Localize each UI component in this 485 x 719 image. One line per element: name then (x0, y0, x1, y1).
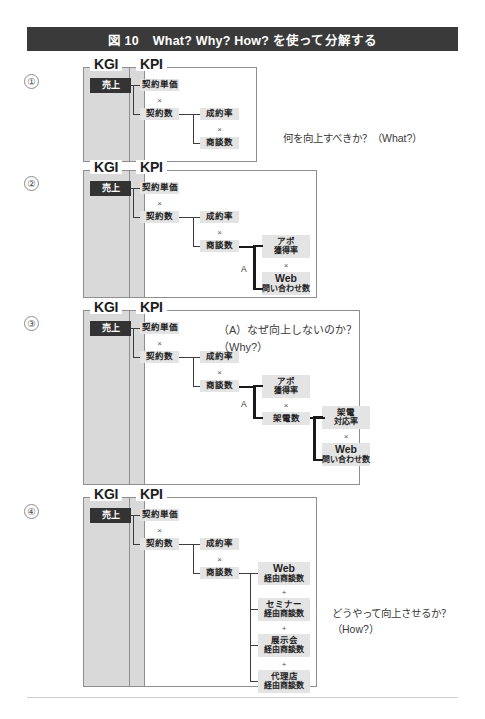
panel-2-connector (133, 188, 134, 217)
panel-4-annotation: どうやって向上させるか？ （How?） (332, 605, 451, 638)
panel-3-annotation: （A）なぜ向上しないのか？ （Why?） (218, 322, 357, 356)
figure-title-text: What? Why? How? を使って分解する (153, 30, 377, 49)
panel-4-node-unit-price: 契約単価 (140, 509, 179, 521)
kgi-label: KGI (90, 57, 122, 71)
panel-1-operator-times-2: × (200, 126, 239, 134)
panel-1-connector (179, 114, 193, 115)
figure-number: 図 10 (108, 30, 139, 49)
panel-4-connector (250, 681, 258, 682)
panel-3-connector (253, 417, 263, 419)
panel-2-connector (179, 217, 193, 218)
panel-3-bracket-2 (313, 417, 316, 461)
panel-4-operator-times-1: × (140, 527, 179, 535)
panel-2-connector (193, 246, 200, 247)
panel-2-operator-times-2: × (200, 229, 239, 237)
panel-3-connector (179, 357, 193, 358)
panel-3-node-sales: 売上 (90, 321, 131, 336)
panel-4-connector (250, 645, 258, 646)
panel-1-node-meetings: 商談数 (200, 137, 239, 149)
panel-3-bracket-a-label: A (241, 399, 247, 409)
panel-1-annotation: 何を向上すべきか？（What?） (283, 130, 422, 146)
panel-3-node-unit-price: 契約単価 (140, 322, 179, 334)
panel-3-node-calls: 架電数 (262, 412, 310, 425)
panel-1-number: ① (24, 74, 39, 89)
panel-1-node-unit-price: 契約単価 (140, 79, 179, 91)
panel-3-connector (133, 357, 140, 358)
panel-4-connector (250, 609, 258, 610)
panel-4-operator-plus-3: + (258, 661, 310, 669)
figure-title-bar: 図 10 What? Why? How? を使って分解する (27, 27, 458, 51)
panel-4-operator-plus-2: + (258, 625, 310, 633)
panel-2-node-appointment-rate: アポ 獲得率 (262, 235, 310, 258)
panel-2-operator-times-1: × (140, 200, 179, 208)
panel-3-number: ③ (24, 316, 39, 331)
panel-3-node-call-response-rate: 架電 対応率 (322, 406, 370, 429)
panel-4-operator-plus-1: + (258, 589, 310, 597)
panel-2-bracket-a-label: A (241, 264, 247, 274)
kpi-label: KPI (136, 487, 167, 501)
panel-2-node-sales: 売上 (90, 181, 131, 196)
panel-3-connector (313, 416, 323, 418)
panel-2-connector (253, 288, 263, 290)
panel-1-connector (133, 114, 140, 115)
panel-3-operator-times-4: × (322, 433, 370, 441)
panel-3-node-call-response-rate-line2: 対応率 (334, 418, 358, 427)
panel-1-connector (133, 85, 134, 114)
panel-3-connector (193, 386, 200, 387)
panel-3-connector (193, 357, 200, 358)
panel-4-node-meetings: 商談数 (200, 567, 239, 579)
panel-1-connector (193, 114, 200, 115)
panel-4-node-web-meetings-line2: 経由商談数 (264, 575, 304, 584)
panel-1-connector (193, 114, 194, 143)
kpi-label: KPI (136, 57, 167, 71)
panel-4-node-agency-meetings-line2: 経由商談数 (264, 682, 304, 691)
footer-rule (27, 697, 458, 698)
panel-2-bracket-a (253, 246, 256, 290)
panel-4-node-expo-meetings: 展示会 経由商談数 (258, 634, 310, 657)
panel-2-node-close-rate: 成約率 (200, 211, 239, 223)
panel-4-connector (179, 544, 193, 545)
panel-2-number: ② (24, 176, 39, 191)
panel-4-node-contracts: 契約数 (140, 538, 179, 550)
panel-1-connector (193, 143, 200, 144)
panel-4-node-agency-meetings: 代理店 経由商談数 (258, 670, 310, 693)
panel-3-connector (313, 459, 323, 461)
panel-1-operator-times-1: × (140, 97, 179, 105)
panel-3-node-contracts: 契約数 (140, 351, 179, 363)
panel-2-node-web-inquiries-line2: 問い合わせ数 (262, 285, 310, 294)
panel-3-operator-times-1: × (140, 340, 179, 348)
panel-2-node-meetings: 商談数 (200, 240, 239, 252)
panel-3-node-web-inquiries-line2: 問い合わせ数 (322, 456, 370, 465)
kpi-label: KPI (136, 160, 167, 174)
panel-3-node-web-inquiries: Web 問い合わせ数 (322, 443, 370, 466)
panel-4-node-expo-meetings-line2: 経由商談数 (264, 646, 304, 655)
panel-2-node-web-inquiries: Web 問い合わせ数 (262, 272, 310, 295)
panel-3-bracket-a (253, 386, 256, 419)
panel-1-node-close-rate: 成約率 (200, 108, 239, 120)
panel-1-node-contracts: 契約数 (140, 108, 179, 120)
panel-4-node-close-rate: 成約率 (200, 538, 239, 550)
panel-4-node-seminar-meetings: セミナー 経由商談数 (258, 598, 310, 621)
panel-2-operator-times-3: × (262, 262, 310, 270)
panel-4-number: ④ (24, 504, 39, 519)
panel-2-connector (193, 217, 200, 218)
panel-3-connector (133, 328, 134, 357)
panel-4-node-seminar-meetings-line2: 経由商談数 (264, 610, 304, 619)
panel-4-connector (133, 515, 134, 544)
panel-4-connector (193, 573, 200, 574)
kgi-label: KGI (90, 300, 122, 314)
panel-3-connector (193, 357, 194, 386)
panel-3-operator-times-3: × (262, 402, 310, 410)
kgi-label: KGI (90, 160, 122, 174)
panel-3-node-appointment-rate: アポ 獲得率 (262, 375, 310, 398)
panel-2-connector (193, 217, 194, 246)
panel-2-connector (133, 217, 140, 218)
panel-4-connector (133, 544, 140, 545)
panel-2-node-unit-price: 契約単価 (140, 182, 179, 194)
panel-4-connector (250, 573, 251, 682)
panel-2-connector (253, 245, 263, 247)
panel-4-node-sales: 売上 (90, 508, 131, 523)
kpi-label: KPI (136, 300, 167, 314)
panel-3-node-meetings: 商談数 (200, 380, 239, 392)
panel-2-node-contracts: 契約数 (140, 211, 179, 223)
